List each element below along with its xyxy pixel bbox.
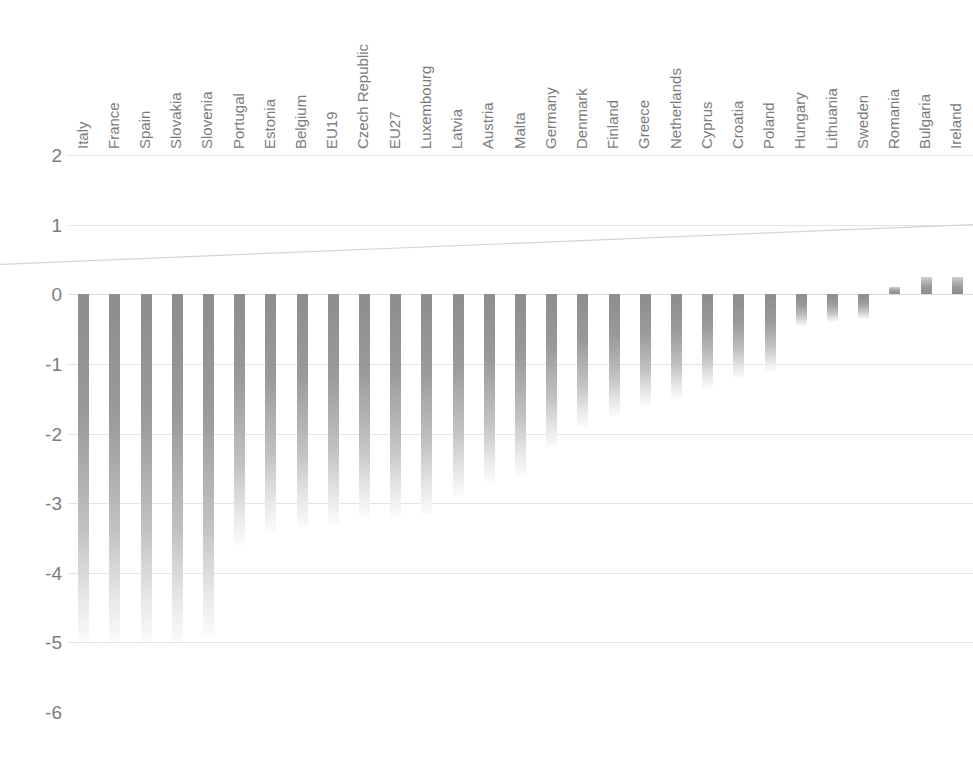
bar <box>297 294 308 527</box>
bar <box>889 287 900 294</box>
x-tick-label: Slovakia <box>168 92 183 149</box>
y-tick-label: 2 <box>16 146 62 165</box>
y-axis: 210-1-2-3-4-5-6 <box>0 155 62 712</box>
bar <box>109 294 120 642</box>
x-tick-label: Italy <box>75 121 90 149</box>
bar <box>328 294 339 524</box>
figure-caption <box>0 750 973 764</box>
x-tick-label: Latvia <box>449 109 464 149</box>
x-tick-label: Netherlands <box>668 68 683 149</box>
bar <box>702 294 713 388</box>
x-tick-label: Portugal <box>231 93 246 149</box>
x-tick-label: Bulgaria <box>917 94 932 149</box>
bar <box>234 294 245 545</box>
bar <box>733 294 744 378</box>
bar <box>952 277 963 294</box>
bar <box>921 277 932 294</box>
bar <box>141 294 152 642</box>
x-tick-label: Hungary <box>792 92 807 149</box>
y-tick-label: -1 <box>16 354 62 373</box>
x-tick-label: France <box>106 102 121 149</box>
bar <box>671 294 682 398</box>
bar <box>858 294 869 318</box>
x-tick-label: Czech Republic <box>355 44 370 149</box>
x-tick-label: EU19 <box>324 111 339 149</box>
x-axis-category-labels: ItalyFranceSpainSlovakiaSloveniaPortugal… <box>68 0 973 155</box>
bar <box>421 294 432 513</box>
x-tick-label: Poland <box>761 102 776 149</box>
y-tick-label: -6 <box>16 703 62 722</box>
bar <box>172 294 183 642</box>
x-tick-label: Lithuania <box>824 88 839 149</box>
x-tick-label: Slovenia <box>199 91 214 149</box>
bar <box>78 294 89 642</box>
bar <box>546 294 557 447</box>
bar <box>796 294 807 325</box>
x-tick-label: Ireland <box>948 103 963 149</box>
y-tick-label: -5 <box>16 633 62 652</box>
bar <box>265 294 276 531</box>
y-tick-label: -4 <box>16 563 62 582</box>
x-tick-label: Belgium <box>293 95 308 149</box>
bar <box>827 294 838 322</box>
bar-chart: 210-1-2-3-4-5-6 ItalyFranceSpainSlovakia… <box>0 0 973 764</box>
x-tick-label: Denmark <box>574 88 589 149</box>
plot-area <box>68 155 973 712</box>
x-tick-label: Croatia <box>730 101 745 149</box>
bar <box>359 294 370 517</box>
x-tick-label: Cyprus <box>699 101 714 149</box>
x-tick-label: Malta <box>512 112 527 149</box>
bar <box>203 294 214 635</box>
x-tick-label: Germany <box>543 87 558 149</box>
bar <box>640 294 651 405</box>
bar <box>515 294 526 475</box>
x-tick-label: Austria <box>480 102 495 149</box>
bar <box>390 294 401 517</box>
x-tick-label: Estonia <box>262 99 277 149</box>
x-tick-label: Spain <box>137 111 152 149</box>
x-tick-label: Finland <box>605 100 620 149</box>
x-tick-label: Romania <box>886 89 901 149</box>
y-tick-label: 1 <box>16 215 62 234</box>
x-tick-label: Sweden <box>855 95 870 149</box>
x-tick-label: Greece <box>636 100 651 149</box>
y-tick-label: 0 <box>16 285 62 304</box>
bars <box>68 155 973 712</box>
x-tick-label: Luxembourg <box>418 66 433 149</box>
y-tick-label: -2 <box>16 424 62 443</box>
bar <box>765 294 776 371</box>
bar <box>484 294 495 482</box>
bar <box>577 294 588 426</box>
x-tick-label: EU27 <box>387 111 402 149</box>
bar <box>453 294 464 496</box>
y-tick-label: -3 <box>16 494 62 513</box>
bar <box>609 294 620 416</box>
